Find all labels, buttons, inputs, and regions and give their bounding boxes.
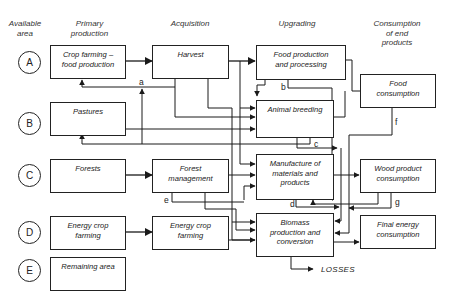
header-upgrading: Upgrading (262, 19, 332, 29)
flow-a (82, 78, 175, 87)
box-wood-product-consumption: Wood product consumption (360, 159, 436, 193)
flow-label-b: b (281, 83, 286, 92)
header-primary-production: Primary production (62, 19, 117, 38)
flow-label-f: f (395, 118, 397, 127)
box-forests: Forests (50, 159, 126, 193)
box-harvest: Harvest (152, 45, 229, 79)
box-biomass: Biomass production and conversion (256, 213, 334, 257)
area-circle-a: A (18, 51, 41, 74)
box-energy-crop-farming-acquisition: Energy crop farming (152, 216, 229, 250)
area-circle-c: C (18, 164, 41, 187)
header-consumption: Consumption of end products (362, 19, 432, 48)
losses-label: LOSSES (321, 265, 355, 274)
flow-label-e: e (164, 196, 169, 205)
box-food-production: Food production and processing (256, 45, 346, 80)
flow-label-c: c (314, 140, 318, 149)
header-acquisition: Acquisition (155, 19, 225, 29)
box-remaining-area: Remaining area (50, 257, 126, 291)
flow-b (257, 80, 265, 96)
flow-label-d: d (290, 200, 295, 209)
area-circle-e: E (18, 259, 41, 282)
box-pastures: Pastures (50, 102, 126, 136)
flow-g (349, 193, 391, 208)
flow-label-a: a (139, 78, 144, 87)
box-energy-crop-farming-primary: Energy crop farming (50, 216, 126, 250)
arrow-harvest-to-manuf (240, 108, 255, 164)
box-manufacture: Manufacture of materials and products (256, 154, 334, 200)
arrow-into-biomass-right (335, 148, 341, 221)
box-forest-management: Forest management (152, 159, 229, 193)
header-available-area: Available area (4, 19, 46, 38)
arrow-recycle-to-manuf (244, 186, 255, 200)
area-circle-b: B (18, 112, 41, 135)
box-final-energy-consumption: Final energy consumption (360, 215, 436, 249)
arrow-harvest-to-animal-2 (175, 87, 255, 117)
box-animal-breeding: Animal breeding (256, 100, 334, 138)
area-circle-d: D (18, 221, 41, 244)
flow-label-g: g (395, 198, 400, 207)
arrow-harvest-to-animal-1 (240, 61, 255, 108)
flow-e (172, 193, 244, 202)
arrow-animal-to-foodcons (333, 91, 345, 117)
arrow-biomass-to-losses (291, 256, 313, 269)
box-crop-farming: Crop farming – food production (50, 45, 126, 79)
box-food-consumption: Food consumption (360, 74, 436, 108)
